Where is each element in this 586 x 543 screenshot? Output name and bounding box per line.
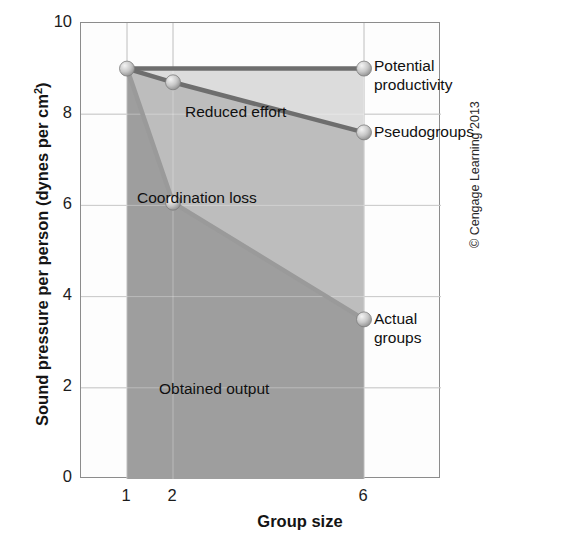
y-axis-label: Sound pressure per person (dynes per cm2… [32,24,53,484]
end-label-actual-line2: groups [374,328,421,347]
marker-pseudogroups-x2 [166,75,181,90]
end-label-potential-line2: productivity [374,75,452,94]
annotation-obtained-output: Obtained output [159,380,269,398]
plot-area: Reduced effort Coordination loss Obtaine… [80,22,440,478]
end-label-actual-line1: Actual [374,309,421,328]
y-tick-10: 10 [30,12,72,31]
end-label-potential-line1: Potential [374,56,452,75]
end-label-potential-productivity: Potential productivity [374,56,452,94]
y-tick-2: 2 [30,376,72,395]
x-tick-1: 1 [106,486,146,505]
annotation-reduced-effort: Reduced effort [185,103,286,121]
marker-origin-x1 [120,61,135,76]
y-axis-label-close: ) [33,82,51,88]
y-axis-label-exponent: 2 [32,88,44,94]
end-label-actual-groups: Actual groups [374,309,421,347]
y-tick-8: 8 [30,103,72,122]
y-tick-0: 0 [30,467,72,486]
marker-actual-groups-x6 [357,312,372,327]
y-tick-6: 6 [30,194,72,213]
y-tick-4: 4 [30,285,72,304]
chart-figure: Sound pressure per person (dynes per cm2… [0,0,586,543]
marker-pseudogroups-x6 [357,125,372,140]
x-tick-2: 2 [152,486,192,505]
x-axis-label: Group size [200,512,400,531]
annotation-coordination-loss: Coordination loss [137,189,257,207]
marker-potential-productivity-x6 [357,61,372,76]
copyright-notice: © Cengage Learning 2013 [468,0,482,248]
end-label-pseudogroups: Pseudogroups [374,122,474,141]
x-tick-6: 6 [343,486,383,505]
